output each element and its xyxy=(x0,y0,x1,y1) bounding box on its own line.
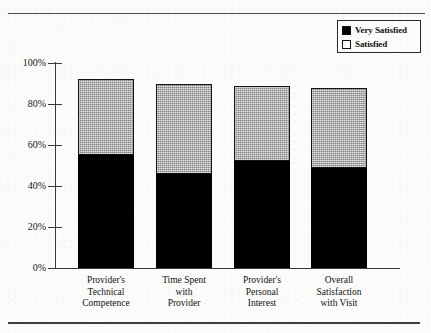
y-axis-tick-label: 100% xyxy=(2,58,46,68)
y-axis-tick xyxy=(48,145,62,146)
chart-figure: 0%20%40%60%80%100% Provider'sTechnicalCo… xyxy=(0,0,431,333)
y-axis-tick-label: 40% xyxy=(2,181,46,191)
bar-segment-satisfied xyxy=(311,88,367,168)
legend-swatch-hollow-square-icon xyxy=(342,40,351,49)
category-label-line: Satisfaction xyxy=(287,287,391,299)
y-axis-tick-label: 80% xyxy=(2,99,46,109)
y-axis-tick xyxy=(48,227,62,228)
legend-swatch-filled-square-icon xyxy=(342,26,351,35)
y-axis-tick-label-wrap: 0% xyxy=(0,263,46,273)
bar-segment-very-satisfied xyxy=(311,168,367,268)
legend-item-very-satisfied: Very Satisfied xyxy=(342,24,407,36)
y-axis-tick-label-wrap: 60% xyxy=(0,140,46,150)
category-label-line: with Visit xyxy=(287,298,391,310)
bar-stack xyxy=(156,63,212,268)
y-axis-tick xyxy=(48,186,62,187)
legend-label: Satisfied xyxy=(355,39,387,49)
y-axis-line xyxy=(55,62,56,269)
legend-label: Very Satisfied xyxy=(355,25,407,35)
y-axis-tick xyxy=(48,104,62,105)
page-rule-bottom xyxy=(8,322,420,324)
y-axis-tick-label: 0% xyxy=(2,263,46,273)
bar-stack xyxy=(78,63,134,268)
bar-segment-very-satisfied xyxy=(234,161,290,268)
bar-segment-satisfied xyxy=(78,79,134,155)
legend-item-satisfied: Satisfied xyxy=(342,38,387,50)
bar-segment-very-satisfied xyxy=(78,155,134,268)
bar-segment-satisfied xyxy=(234,86,290,162)
y-axis-tick-label-wrap: 40% xyxy=(0,181,46,191)
y-axis-tick-label-wrap: 20% xyxy=(0,222,46,232)
page-rule-top xyxy=(8,13,425,14)
bar-segment-very-satisfied xyxy=(156,174,212,268)
y-axis-tick-label-wrap: 80% xyxy=(0,99,46,109)
chart-legend: Very Satisfied Satisfied xyxy=(337,20,421,53)
category-label-line: Overall xyxy=(287,275,391,287)
x-axis-category-label: OverallSatisfactionwith Visit xyxy=(287,275,391,310)
y-axis-tick xyxy=(48,63,62,64)
bar-stack xyxy=(234,63,290,268)
y-axis-tick-label: 60% xyxy=(2,140,46,150)
y-axis-tick xyxy=(48,268,62,269)
bar-stack xyxy=(311,63,367,268)
bar-segment-satisfied xyxy=(156,84,212,174)
y-axis-tick-label-wrap: 100% xyxy=(0,58,46,68)
y-axis-tick-label: 20% xyxy=(2,222,46,232)
x-axis-line xyxy=(48,268,400,269)
